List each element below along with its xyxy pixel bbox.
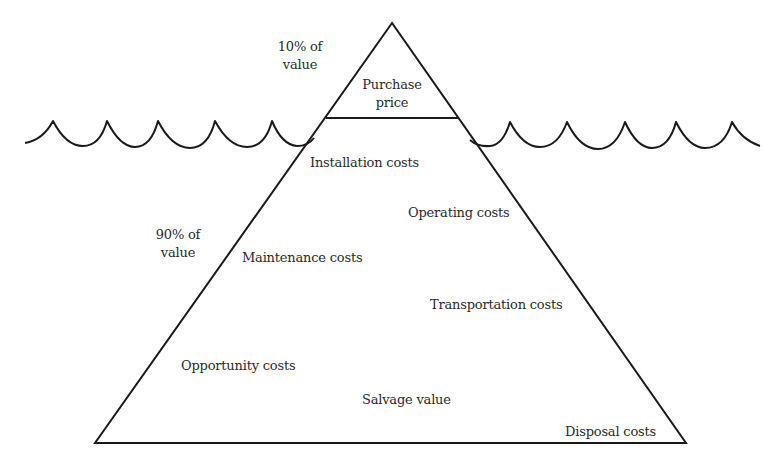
purchase-price-label: Purchase price xyxy=(356,76,428,112)
disposal-costs-label: Disposal costs xyxy=(565,423,656,441)
water-waves-right xyxy=(470,122,760,149)
opportunity-costs-label: Opportunity costs xyxy=(181,357,295,375)
maintenance-costs-label: Maintenance costs xyxy=(242,249,362,267)
iceberg-diagram: 10% of value Purchase price 90% of value… xyxy=(0,0,781,464)
operating-costs-label: Operating costs xyxy=(408,204,510,222)
below-water-share-label: 90% of value xyxy=(148,226,208,262)
above-water-share-label: 10% of value xyxy=(270,38,330,74)
transportation-costs-label: Transportation costs xyxy=(430,296,562,314)
water-waves-left xyxy=(25,121,314,148)
salvage-value-label: Salvage value xyxy=(362,391,451,409)
installation-costs-label: Installation costs xyxy=(310,154,419,172)
